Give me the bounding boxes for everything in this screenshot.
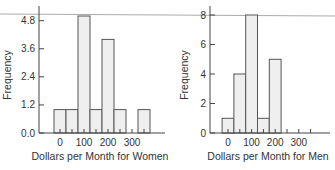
x-tick-label: 300 [290, 137, 307, 148]
x-tick-label: 200 [267, 137, 284, 148]
y-tick-label: 4 [200, 69, 206, 80]
y-tick-label: 8 [200, 10, 206, 21]
y-tick-label: 6 [200, 39, 206, 50]
x-tick-label: 200 [100, 137, 117, 148]
histogram-bar [234, 74, 246, 133]
y-axis-label: Frequency [1, 49, 13, 99]
x-tick-label: 100 [243, 137, 260, 148]
y-tick-label: 0.0 [21, 128, 35, 139]
y-tick-label: 2 [200, 98, 206, 109]
y-tick-label: 2.4 [21, 71, 35, 82]
y-tick-label: 4.8 [21, 15, 35, 26]
x-tick-label: 100 [76, 137, 93, 148]
x-tick-label: 0 [57, 137, 63, 148]
histogram-bar [102, 39, 114, 133]
y-tick-label: 1.2 [21, 99, 35, 110]
top-rule-line [0, 14, 335, 16]
x-tick-label: 0 [225, 137, 231, 148]
histogram-women: 0.01.22.43.64.80100200300Dollars per Mon… [1, 6, 169, 162]
histogram-bar [78, 16, 90, 133]
histogram-figure: 0.01.22.43.64.80100200300Dollars per Mon… [0, 0, 335, 170]
histogram-men: 024680100200300Dollars per Month for Men… [178, 6, 330, 162]
histogram-bar [269, 59, 281, 133]
y-tick-label: 0 [200, 128, 206, 139]
y-axis-label: Frequency [178, 49, 190, 99]
histogram-bar [246, 15, 258, 133]
x-axis-label: Dollars per Month for Women [32, 150, 169, 162]
x-tick-label: 300 [124, 137, 141, 148]
x-axis-label: Dollars per Month for Men [207, 150, 329, 162]
y-tick-label: 3.6 [21, 43, 35, 54]
